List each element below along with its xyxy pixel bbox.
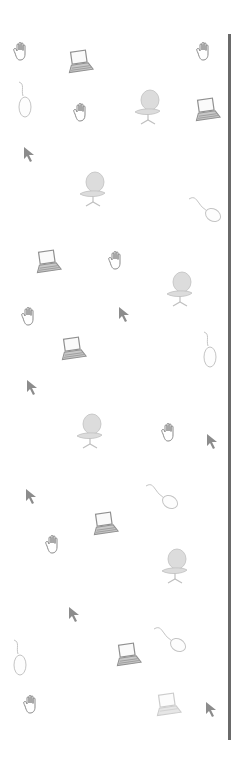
computer-mouse-icon <box>10 638 30 678</box>
office-chair-icon <box>159 547 191 587</box>
arrow-cursor-icon <box>25 488 39 506</box>
office-chair-icon <box>77 170 109 210</box>
hand-icon <box>42 533 66 557</box>
laptop-icon <box>66 49 94 75</box>
laptop-icon <box>154 692 182 718</box>
office-chair-icon <box>132 88 164 128</box>
hand-icon <box>10 40 34 64</box>
hand-icon <box>18 305 42 329</box>
arrow-cursor-icon <box>205 701 219 719</box>
arrow-cursor-icon <box>118 306 132 324</box>
laptop-icon <box>91 511 119 537</box>
vertical-divider-line <box>228 34 231 740</box>
arrow-cursor-icon <box>206 433 220 451</box>
laptop-icon <box>59 336 87 362</box>
hand-icon <box>20 693 44 717</box>
computer-mouse-icon <box>144 482 180 512</box>
computer-mouse-icon <box>187 195 223 225</box>
laptop-icon <box>193 97 221 123</box>
hand-icon <box>105 249 129 273</box>
hand-icon <box>158 421 182 445</box>
computer-mouse-icon <box>15 80 35 120</box>
arrow-cursor-icon <box>26 379 40 397</box>
office-chair-icon <box>164 270 196 310</box>
laptop-icon <box>34 249 62 275</box>
arrow-cursor-icon <box>68 606 82 624</box>
arrow-cursor-icon <box>23 146 37 164</box>
computer-mouse-icon <box>152 625 188 655</box>
hand-icon <box>193 40 217 64</box>
decorative-pattern-background <box>0 0 235 760</box>
office-chair-icon <box>74 412 106 452</box>
laptop-icon <box>114 642 142 668</box>
computer-mouse-icon <box>200 330 220 370</box>
hand-icon <box>70 101 94 125</box>
